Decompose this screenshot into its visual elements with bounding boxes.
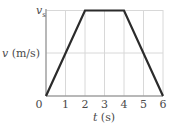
velocity-time-chart: 0 1 2 3 4 5 6 t (s) v (m/s) vs <box>0 0 175 131</box>
grid <box>46 10 163 96</box>
x-axis-label: t (s) <box>93 111 115 124</box>
x-tick-4: 4 <box>121 98 128 111</box>
y-axis-label: v (m/s) <box>2 47 40 60</box>
x-tick-5: 5 <box>140 98 147 111</box>
x-tick-labels: 0 1 2 3 4 5 6 <box>36 98 167 111</box>
x-tick-2: 2 <box>82 98 89 111</box>
x-tick-1: 1 <box>62 98 69 111</box>
y-tick-vs: vs <box>36 4 46 19</box>
x-tick-3: 3 <box>101 98 108 111</box>
x-tick-6: 6 <box>160 98 167 111</box>
x-tick-0: 0 <box>36 98 43 111</box>
